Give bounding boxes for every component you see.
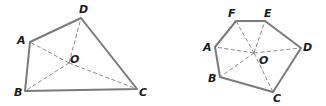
quadrilateral-figure: ADCBO [14, 3, 147, 99]
segment-OE [254, 21, 265, 53]
quadrilateral-outline [25, 18, 137, 91]
vertex-label-b: B [14, 86, 22, 99]
segment-OB [220, 53, 254, 77]
segment-OA [215, 47, 254, 53]
vertex-label-e: E [264, 7, 272, 20]
vertex-label-c: C [273, 92, 281, 105]
segment-OB [25, 63, 69, 91]
segment-OD [254, 48, 301, 53]
vertex-label-o: O [259, 54, 268, 67]
hexagon-outline [215, 21, 301, 92]
segment-OA [30, 42, 69, 63]
vertex-label-d: D [303, 41, 312, 54]
geometry-diagram: ADCBOFEDCBAO [0, 0, 326, 106]
vertex-label-a: A [16, 34, 26, 47]
vertex-label-f: F [228, 7, 236, 20]
vertex-label-b: B [208, 72, 216, 85]
vertex-label-a: A [202, 41, 212, 54]
vertex-label-c: C [139, 86, 147, 99]
vertex-label-o: O [70, 53, 79, 66]
hexagon-figure: FEDCBAO [202, 7, 312, 105]
segment-OF [236, 21, 254, 53]
vertex-label-d: D [79, 3, 88, 16]
